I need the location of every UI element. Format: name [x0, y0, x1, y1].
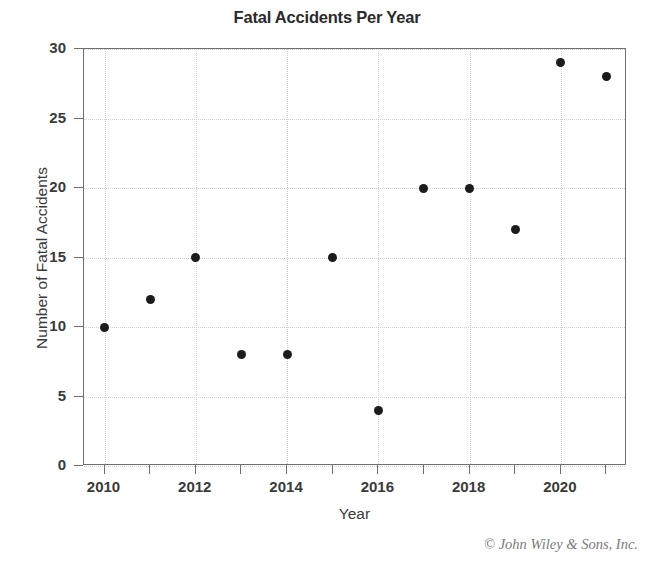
data-point: [283, 350, 292, 359]
x-tick-label: 2012: [160, 478, 230, 495]
y-tick-mark: [74, 187, 83, 188]
x-tick-label: 2014: [251, 478, 321, 495]
x-tick-mark: [240, 465, 241, 474]
y-tick-mark: [74, 48, 83, 49]
data-point: [374, 406, 383, 415]
y-axis-label: Number of Fatal Accidents: [33, 128, 51, 388]
y-tick-label: 30: [26, 39, 66, 56]
gridline-horizontal: [84, 258, 625, 259]
gridline-horizontal: [84, 188, 625, 189]
gridline-vertical: [378, 49, 379, 464]
x-tick-mark: [423, 465, 424, 474]
gridline-vertical: [561, 49, 562, 464]
y-tick-mark: [74, 257, 83, 258]
gridline-vertical: [105, 49, 106, 464]
data-point: [511, 225, 520, 234]
gridline-horizontal: [84, 119, 625, 120]
x-tick-mark: [149, 465, 150, 474]
data-point: [419, 184, 428, 193]
x-tick-mark: [104, 465, 105, 474]
x-tick-label: 2018: [434, 478, 504, 495]
x-tick-mark: [286, 465, 287, 474]
y-tick-label: 25: [26, 109, 66, 126]
data-point: [237, 350, 246, 359]
y-tick-mark: [74, 465, 83, 466]
gridline-horizontal: [84, 327, 625, 328]
data-point: [191, 253, 200, 262]
gridline-vertical: [470, 49, 471, 464]
data-point: [465, 184, 474, 193]
gridline-vertical: [287, 49, 288, 464]
x-axis-label: Year: [83, 505, 626, 523]
x-tick-label: 2016: [342, 478, 412, 495]
x-tick-mark: [469, 465, 470, 474]
gridline-horizontal: [84, 397, 625, 398]
chart-title: Fatal Accidents Per Year: [0, 8, 654, 27]
scatter-plot-figure: Fatal Accidents Per Year 201020122014201…: [0, 0, 654, 566]
x-tick-mark: [377, 465, 378, 474]
data-point: [146, 295, 155, 304]
x-tick-mark: [332, 465, 333, 474]
data-point: [556, 58, 565, 67]
y-tick-label: 5: [26, 387, 66, 404]
x-tick-mark: [514, 465, 515, 474]
data-point: [328, 253, 337, 262]
y-tick-mark: [74, 118, 83, 119]
y-tick-label: 0: [26, 456, 66, 473]
y-tick-mark: [74, 326, 83, 327]
y-tick-mark: [74, 396, 83, 397]
data-point: [602, 72, 611, 81]
plot-area: [83, 48, 626, 465]
x-tick-mark: [605, 465, 606, 474]
x-tick-label: 2020: [525, 478, 595, 495]
copyright-credit: © John Wiley & Sons, Inc.: [484, 536, 638, 553]
gridline-horizontal: [84, 466, 625, 467]
data-point: [100, 323, 109, 332]
gridline-horizontal: [84, 49, 625, 50]
x-tick-label: 2010: [69, 478, 139, 495]
x-tick-mark: [195, 465, 196, 474]
x-tick-mark: [560, 465, 561, 474]
